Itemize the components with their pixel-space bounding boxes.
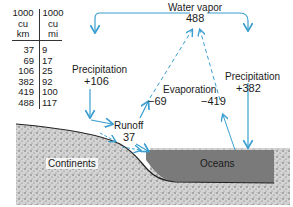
arrow-vapor-to-land-precip xyxy=(95,13,190,32)
arrow-ocean-evaporation xyxy=(223,115,235,150)
table-header-mi: 1000 cu mi xyxy=(42,8,64,40)
table-cell-mi: 9 xyxy=(42,45,47,56)
table-cell-mi: 25 xyxy=(42,66,53,77)
evaporation-label: Evaporation xyxy=(163,84,216,95)
land-precipitation-label: Precipitation xyxy=(72,64,127,75)
table-cell-km: 37 xyxy=(12,45,34,56)
arrow-land-evaporation xyxy=(140,102,148,118)
table-cell-mi: 117 xyxy=(42,98,57,109)
table-cell-km: 106 xyxy=(12,66,34,77)
table-cell-mi: 100 xyxy=(42,87,58,98)
table-divider-horizontal xyxy=(12,40,62,41)
oceans-label: Oceans xyxy=(200,158,234,169)
runoff-value: 37 xyxy=(123,131,135,143)
ocean-precipitation-value: +382 xyxy=(236,82,261,94)
land-evaporation-value: −69 xyxy=(148,95,167,107)
continents-label: Continents xyxy=(46,158,98,169)
ocean-evaporation-value: −419 xyxy=(201,95,226,107)
arrow-vapor-to-ocean-precip xyxy=(207,13,248,30)
table-header-km: 1000 cu km xyxy=(12,8,34,40)
ocean-precipitation-label: Precipitation xyxy=(225,71,280,82)
arrow-to-runoff xyxy=(91,120,112,124)
table-divider-vertical xyxy=(39,9,40,109)
land-precipitation-value: +106 xyxy=(84,75,109,87)
water-vapor-value: 488 xyxy=(186,12,204,24)
runoff-label: Runoff xyxy=(114,120,143,131)
table-cell-km: 419 xyxy=(12,87,34,98)
table-cell-km: 488 xyxy=(12,98,34,109)
